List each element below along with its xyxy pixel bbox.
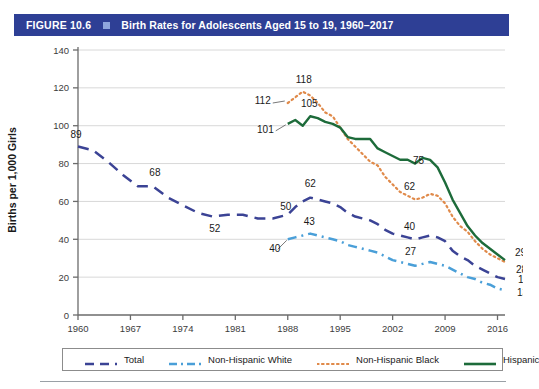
data-label: 19	[518, 274, 523, 285]
y-tick-label: 120	[53, 82, 69, 93]
legend-swatch-hispanic	[464, 355, 496, 365]
y-tick-labels: 020406080100120140	[53, 45, 69, 321]
legend-label-hispanic: Hispanic	[503, 354, 539, 365]
x-tick-label: 2016	[487, 323, 508, 334]
x-tick-label: 1974	[172, 323, 193, 334]
gridlines	[78, 50, 505, 277]
data-label: 62	[404, 181, 416, 192]
data-label: 29	[515, 247, 523, 258]
chart-plot-area: 020406080100120140 196019671974198119881…	[0, 38, 523, 343]
legend-label-non-hispanic-white: Non-Hispanic White	[208, 354, 292, 365]
y-tick-label: 140	[53, 45, 69, 56]
data-label: 62	[305, 178, 317, 189]
x-tick-label: 1960	[67, 323, 88, 334]
y-tick-label: 0	[64, 310, 69, 321]
series-line-non-hispanic-white	[288, 234, 505, 291]
y-tick-label: 100	[53, 120, 69, 131]
legend-item-non-hispanic-white[interactable]: Non-Hispanic White	[169, 354, 292, 365]
legend-item-hispanic[interactable]: Hispanic	[464, 354, 539, 365]
x-tick-labels: 196019671974198119881995200220092016	[67, 323, 508, 334]
figure-number: FIGURE 10.6	[26, 19, 91, 31]
x-tick-label: 2009	[434, 323, 455, 334]
data-series	[78, 92, 505, 291]
data-label: 50	[280, 201, 292, 212]
y-tick-label: 80	[58, 158, 69, 169]
data-label: 118	[296, 74, 312, 85]
data-label: 75	[413, 155, 425, 166]
x-tick-label: 1988	[277, 323, 298, 334]
x-tick-label: 2002	[382, 323, 403, 334]
legend-swatch-non-hispanic-white	[169, 355, 201, 365]
square-bullet-icon	[103, 22, 110, 29]
bottom-divider	[40, 381, 506, 382]
y-tick-label: 20	[58, 272, 69, 283]
x-tick-label: 1995	[330, 323, 351, 334]
chart-legend: Total Non-Hispanic White Non-Hispanic Bl…	[62, 348, 503, 371]
figure-header-bar: FIGURE 10.6 Birth Rates for Adolescents …	[14, 14, 509, 36]
data-label: 89	[70, 129, 82, 140]
legend-label-non-hispanic-black: Non-Hispanic Black	[356, 354, 439, 365]
legend-swatch-non-hispanic-black	[317, 355, 349, 365]
figure-title: Birth Rates for Adolescents Aged 15 to 1…	[121, 19, 393, 31]
series-line-total	[78, 147, 505, 280]
data-label: 27	[405, 246, 417, 257]
y-tick-label: 60	[58, 196, 69, 207]
data-label: 105	[301, 98, 318, 109]
legend-item-non-hispanic-black[interactable]: Non-Hispanic Black	[317, 354, 439, 365]
data-label: 13	[517, 287, 523, 298]
series-line-non-hispanic-black	[288, 92, 505, 262]
legend-swatch-total	[85, 355, 117, 365]
legend-item-total[interactable]: Total	[85, 354, 144, 365]
x-tick-label: 1981	[225, 323, 246, 334]
data-label: 40	[269, 243, 281, 254]
data-label: 68	[149, 167, 161, 178]
line-chart-svg: 020406080100120140 196019671974198119881…	[0, 38, 523, 343]
data-label: 101	[257, 124, 274, 135]
data-label: 112	[255, 95, 271, 106]
data-label: 52	[209, 223, 221, 234]
data-label: 40	[404, 221, 416, 232]
x-tick-label: 1967	[120, 323, 141, 334]
legend-label-total: Total	[124, 354, 144, 365]
data-label: 43	[304, 216, 316, 227]
y-tick-label: 40	[58, 234, 69, 245]
data-label: 28	[516, 264, 523, 275]
